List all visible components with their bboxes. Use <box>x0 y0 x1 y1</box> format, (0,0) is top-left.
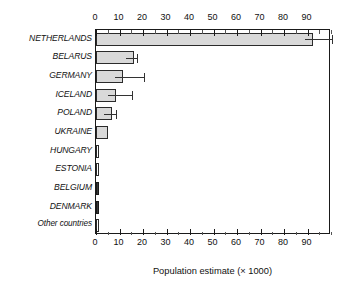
minor-tick-bottom-100 <box>331 232 332 236</box>
bar-ukraine <box>96 126 108 139</box>
minor-tick-bottom-75 <box>272 232 273 236</box>
major-tick-bottom-70 <box>261 229 262 235</box>
bottom-tick-label-80: 80 <box>273 238 293 247</box>
error-bar-cap-belarus <box>137 54 138 63</box>
major-tick-bottom-40 <box>190 229 191 235</box>
major-tick-top-0 <box>96 30 97 36</box>
major-tick-top-50 <box>214 30 215 36</box>
bottom-tick-label-30: 30 <box>156 238 176 247</box>
major-tick-top-40 <box>190 30 191 36</box>
major-tick-bottom-90 <box>308 229 309 235</box>
bar-hungary <box>96 145 99 158</box>
major-tick-bottom-80 <box>284 229 285 235</box>
minor-tick-top-85 <box>296 30 297 34</box>
error-bar-cap-netherlands <box>332 35 333 44</box>
category-label-belarus: BELARUS <box>0 52 92 61</box>
minor-tick-top-45 <box>202 30 203 34</box>
minor-tick-top-65 <box>249 30 250 34</box>
error-bar-cap-germany <box>144 73 145 82</box>
minor-tick-bottom-5 <box>108 232 109 236</box>
top-tick-label-90: 90 <box>297 13 317 22</box>
x-axis-title: Population estimate (× 1000) <box>95 266 330 276</box>
top-tick-label-50: 50 <box>203 13 223 22</box>
minor-tick-top-75 <box>272 30 273 34</box>
minor-tick-top-25 <box>155 30 156 34</box>
major-tick-bottom-10 <box>120 229 121 235</box>
bar-netherlands <box>96 33 313 46</box>
minor-tick-bottom-95 <box>319 232 320 236</box>
error-bar-poland <box>104 114 116 115</box>
major-tick-top-10 <box>120 30 121 36</box>
minor-tick-top-100 <box>331 30 332 34</box>
error-bar-iceland <box>108 95 132 96</box>
category-label-other-countries: Other countries <box>0 220 92 228</box>
minor-tick-top-35 <box>178 30 179 34</box>
error-bar-cap-iceland <box>132 91 133 100</box>
error-bar-germany <box>115 77 144 78</box>
minor-tick-bottom-25 <box>155 232 156 236</box>
top-tick-label-70: 70 <box>250 13 270 22</box>
major-tick-top-20 <box>143 30 144 36</box>
major-tick-top-90 <box>308 30 309 36</box>
minor-tick-top-55 <box>225 30 226 34</box>
minor-tick-top-5 <box>108 30 109 34</box>
bottom-tick-label-10: 10 <box>109 238 129 247</box>
category-label-germany: GERMANY <box>0 71 92 80</box>
plot-area <box>95 29 330 234</box>
category-label-hungary: HUNGARY <box>0 146 92 155</box>
category-label-belgium: BELGIUM <box>0 183 92 192</box>
category-label-denmark: DENMARK <box>0 202 92 211</box>
top-tick-label-80: 80 <box>273 13 293 22</box>
top-tick-label-10: 10 <box>109 13 129 22</box>
bottom-tick-label-70: 70 <box>250 238 270 247</box>
top-tick-label-30: 30 <box>156 13 176 22</box>
category-label-netherlands: NETHERLANDS <box>0 34 92 43</box>
error-bar-belarus <box>126 58 138 59</box>
top-tick-label-20: 20 <box>132 13 152 22</box>
bottom-tick-label-50: 50 <box>203 238 223 247</box>
minor-tick-bottom-55 <box>225 232 226 236</box>
major-tick-top-60 <box>237 30 238 36</box>
minor-tick-top-95 <box>319 30 320 34</box>
bottom-tick-label-0: 0 <box>85 238 105 247</box>
bar-denmark <box>96 201 99 214</box>
major-tick-bottom-0 <box>96 229 97 235</box>
category-label-estonia: ESTONIA <box>0 164 92 173</box>
major-tick-bottom-60 <box>237 229 238 235</box>
category-label-poland: POLAND <box>0 108 92 117</box>
category-label-ukraine: UKRAINE <box>0 127 92 136</box>
minor-tick-top-15 <box>131 30 132 34</box>
major-tick-top-70 <box>261 30 262 36</box>
major-tick-bottom-20 <box>143 229 144 235</box>
bottom-tick-label-60: 60 <box>226 238 246 247</box>
major-tick-top-30 <box>167 30 168 36</box>
minor-tick-bottom-15 <box>131 232 132 236</box>
category-label-iceland: ICELAND <box>0 90 92 99</box>
top-tick-label-60: 60 <box>226 13 246 22</box>
bar-belgium <box>96 182 99 195</box>
bottom-tick-label-40: 40 <box>179 238 199 247</box>
bottom-tick-label-20: 20 <box>132 238 152 247</box>
top-tick-label-0: 0 <box>85 13 105 22</box>
major-tick-top-80 <box>284 30 285 36</box>
bottom-tick-label-90: 90 <box>297 238 317 247</box>
major-tick-bottom-30 <box>167 229 168 235</box>
population-bar-chart: NETHERLANDSBELARUSGERMANYICELANDPOLANDUK… <box>0 0 346 285</box>
category-axis-labels: NETHERLANDSBELARUSGERMANYICELANDPOLANDUK… <box>0 29 92 234</box>
major-tick-bottom-50 <box>214 229 215 235</box>
bar-estonia <box>96 163 99 176</box>
minor-tick-bottom-85 <box>296 232 297 236</box>
error-bar-cap-poland <box>116 110 117 119</box>
minor-tick-bottom-35 <box>178 232 179 236</box>
minor-tick-bottom-45 <box>202 232 203 236</box>
top-tick-label-40: 40 <box>179 13 199 22</box>
error-bar-netherlands <box>305 39 332 40</box>
minor-tick-bottom-65 <box>249 232 250 236</box>
